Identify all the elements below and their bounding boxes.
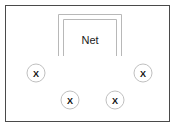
player-marker-bottom-right-glyph: X <box>112 96 118 106</box>
player-marker-left-glyph: X <box>33 69 39 79</box>
player-marker-left[interactable]: X <box>27 64 45 82</box>
player-marker-right[interactable]: X <box>134 64 152 82</box>
player-marker-bottom-left-glyph: X <box>67 96 73 106</box>
court-diagram-canvas: Net X X X X <box>0 0 175 129</box>
player-marker-bottom-left[interactable]: X <box>61 91 79 109</box>
court-diagram: Net X X X X <box>0 0 175 129</box>
court-boundary <box>6 6 170 122</box>
player-marker-bottom-right[interactable]: X <box>106 91 124 109</box>
net-label: Net <box>81 34 98 46</box>
player-marker-right-glyph: X <box>140 69 146 79</box>
